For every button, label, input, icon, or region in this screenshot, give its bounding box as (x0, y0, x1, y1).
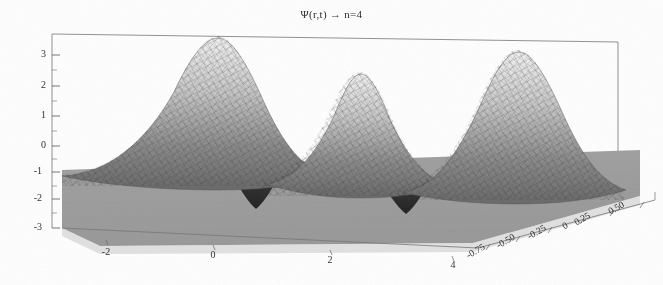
y-tick-label: 0 (24, 139, 46, 150)
surface-plot-svg (0, 0, 663, 285)
y-tick-label: 1 (24, 109, 46, 120)
y-tick-label: -3 (20, 221, 42, 232)
x-tick-label: 0 (200, 249, 226, 260)
y-axis-ticks (52, 55, 60, 228)
plot-stage: 3 2 1 0 -1 -2 -3 -2 0 2 4 -0.75 -0.50 -0… (0, 0, 663, 285)
figure-root: Ψ(r,t) → n=4 (0, 0, 663, 285)
x-tick-label: -2 (93, 246, 119, 257)
y-tick-label: 3 (24, 48, 46, 59)
y-tick-label: -1 (20, 165, 42, 176)
x-tick-label: 4 (440, 259, 466, 270)
x-tick-label: 2 (317, 254, 343, 265)
wavefunction-lobe-3 (396, 44, 636, 206)
y-tick-label: -2 (20, 192, 42, 203)
y-tick-label: 2 (24, 79, 46, 90)
